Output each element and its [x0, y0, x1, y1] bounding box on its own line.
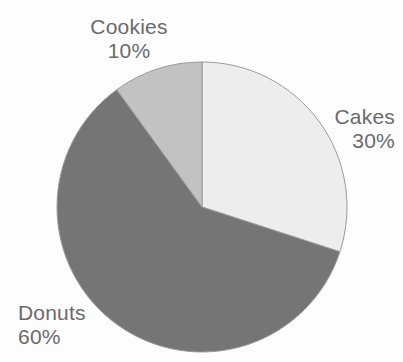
pie-chart: Cookies 10% Cakes 30% Donuts 60%: [0, 0, 403, 362]
pie-label-donuts: Donuts 60%: [18, 300, 138, 349]
pie-label-cakes-name: Cakes: [275, 104, 395, 129]
pie-label-cookies: Cookies 10%: [77, 14, 181, 63]
pie-label-donuts-value: 60%: [18, 324, 138, 349]
pie-label-cookies-name: Cookies: [77, 14, 181, 39]
pie-label-cookies-value: 10%: [77, 38, 181, 63]
pie-label-cakes: Cakes 30%: [275, 104, 395, 153]
pie-label-donuts-name: Donuts: [18, 300, 138, 325]
pie-label-cakes-value: 30%: [275, 128, 395, 153]
